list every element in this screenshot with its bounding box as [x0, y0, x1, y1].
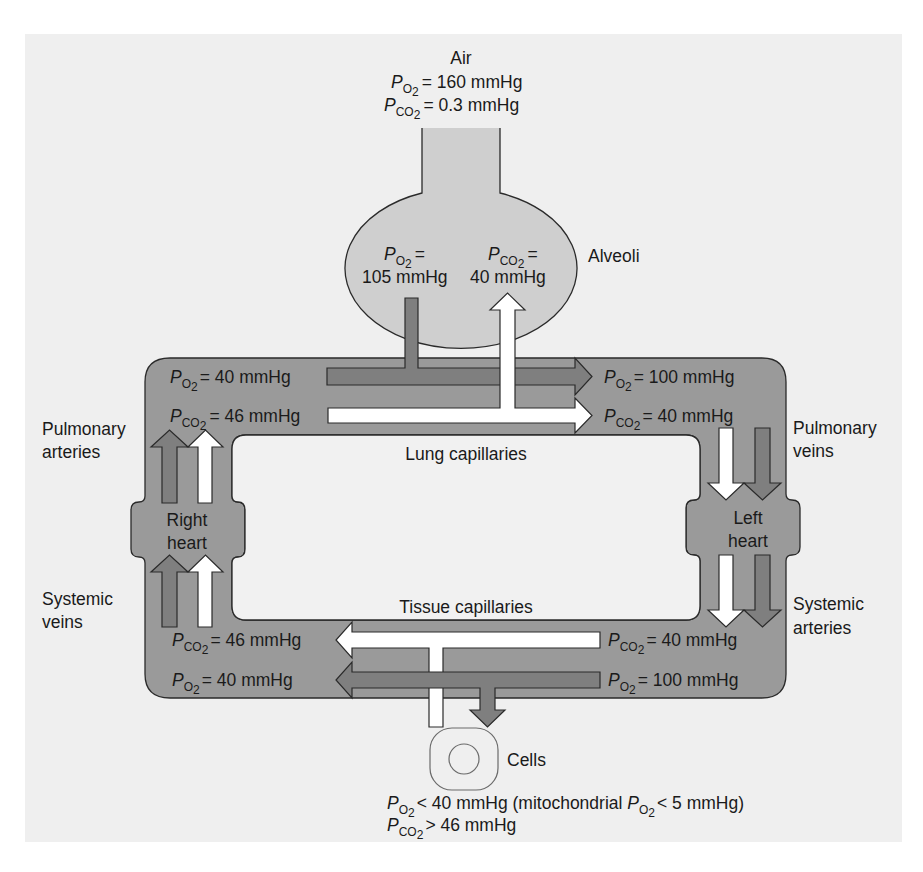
alveoli-label: Alveoli: [588, 246, 640, 266]
lung-capillaries-label: Lung capillaries: [405, 444, 527, 464]
systemic-arteries-label-1: Systemic: [793, 594, 864, 614]
right-heart-label-2: heart: [167, 533, 207, 553]
pulmonary-arteries-label-1: Pulmonary: [42, 419, 126, 439]
left-heart-label-2: heart: [728, 531, 768, 551]
gas-exchange-diagram: Air PO2= 160 mmHg PCO2= 0.3 mmHg Alveoli…: [0, 0, 923, 872]
air-title: Air: [450, 48, 472, 68]
pulmonary-arteries-label-2: arteries: [42, 442, 101, 462]
cells-label: Cells: [507, 750, 546, 770]
alveoli-po2-value: 105 mmHg: [362, 267, 448, 287]
right-heart-label-1: Right: [167, 510, 208, 530]
systemic-arteries-label-2: arteries: [793, 618, 852, 638]
left-heart-label-1: Left: [733, 508, 762, 528]
tissue-capillaries-label: Tissue capillaries: [399, 597, 533, 617]
pulmonary-veins-label-1: Pulmonary: [793, 418, 877, 438]
pulmonary-veins-label-2: veins: [793, 441, 834, 461]
systemic-veins-label-2: veins: [42, 612, 83, 632]
systemic-veins-label-1: Systemic: [42, 589, 113, 609]
alveoli-pco2-value: 40 mmHg: [470, 267, 546, 287]
